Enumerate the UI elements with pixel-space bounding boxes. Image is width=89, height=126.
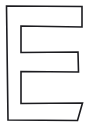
letter-e-outline-path xyxy=(7,6,83,121)
drawing-canvas: Capital letter E drawn as a thin black o… xyxy=(0,0,89,126)
letter-e-drawing: Capital letter E drawn as a thin black o… xyxy=(0,0,89,126)
